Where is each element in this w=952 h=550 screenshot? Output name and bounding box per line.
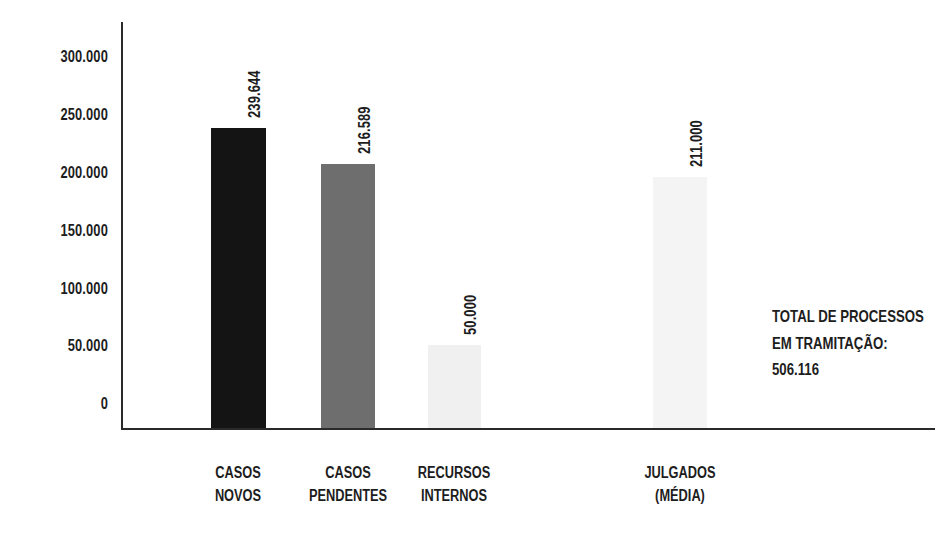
y-tick-label: 0 [22,395,108,412]
bar-value-recursos-internos: 50.000 [462,283,479,335]
x-category-casos-novos: CASOS NOVOS [178,461,298,507]
x-category-recursos-internos: RECURSOS INTERNOS [394,461,514,507]
bar-value-text: 239.644 [246,70,263,118]
total-processos-annotation: TOTAL DE PROCESSOS EM TRAMITAÇÃO: 506.11… [772,303,952,383]
category-line-2: NOVOS [190,484,286,507]
y-tick-label: 150.000 [22,222,108,239]
category-line-2: PENDENTES [300,484,396,507]
y-tick-label: 300.000 [22,48,108,65]
category-line-2: INTERNOS [406,484,502,507]
bar-recursos-internos [428,345,481,428]
total-note-line-3: 506.116 [772,356,924,383]
bar-julgados-media [653,177,707,428]
y-axis-line [121,22,123,429]
bar-casos-pendentes [321,164,375,428]
bar-value-text: 216.589 [356,106,373,154]
category-line-1: CASOS [300,461,396,484]
y-tick-label: 100.000 [22,280,108,297]
y-tick-label: 50.000 [22,337,108,354]
total-note-line-2: EM TRAMITAÇÃO: [772,330,924,357]
total-note-line-1: TOTAL DE PROCESSOS [772,303,924,330]
y-tick-label: 200.000 [22,164,108,181]
bar-value-casos-novos: 239.644 [246,57,263,118]
x-axis-line [121,428,935,430]
category-line-1: RECURSOS [406,461,502,484]
category-line-1: JULGADOS [632,461,728,484]
category-line-1: CASOS [190,461,286,484]
bar-value-text: 211.000 [688,120,705,167]
bar-value-julgados-media: 211.000 [688,107,705,167]
x-category-casos-pendentes: CASOS PENDENTES [288,461,408,507]
bar-chart: 300.000 250.000 200.000 150.000 100.000 … [0,0,952,550]
bar-value-text: 50.000 [462,295,479,335]
y-tick-label: 250.000 [22,106,108,123]
x-category-julgados-media: JULGADOS (MÉDIA) [620,461,740,507]
category-line-2: (MÉDIA) [632,484,728,507]
bar-casos-novos [211,128,266,428]
bar-value-casos-pendentes: 216.589 [356,93,373,154]
